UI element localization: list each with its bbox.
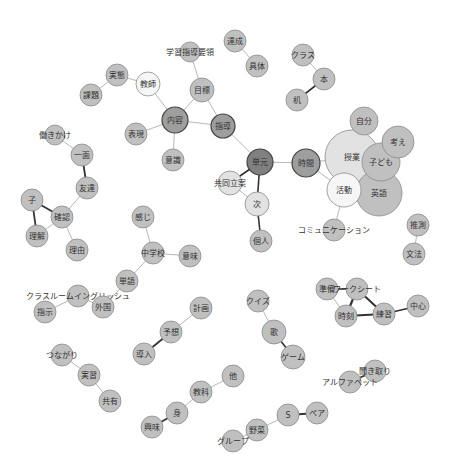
node-song[interactable]: 歌 [262,320,286,344]
node-label: 単元 [252,157,268,167]
node-label: ワークシート [333,285,381,294]
node-label: ゲーム [281,352,305,362]
node-realization[interactable]: 実習 [78,364,100,386]
node-label: アルファベット [322,378,378,387]
node-pair[interactable]: ペア [306,402,328,424]
node-class[interactable]: クラス [291,44,315,66]
node-interest[interactable]: 興味 [141,416,163,438]
node-label: 指示 [37,307,53,317]
node-guess[interactable]: 推測 [407,214,429,236]
node-foreign[interactable]: 外国 [92,296,114,318]
node-desk[interactable]: 机 [286,89,308,111]
node-label: 表現 [128,129,144,139]
node-label: 感じ [135,212,151,222]
node-aspect[interactable]: 一面 [71,144,93,166]
node-activity[interactable]: 活動 [327,173,361,207]
node-communication[interactable]: コミュニケーション [298,219,370,241]
node-expression[interactable]: 表現 [125,123,147,145]
node-vegetable[interactable]: 野菜 [246,419,268,441]
node-game[interactable]: ゲーム [281,345,305,369]
node-body[interactable]: 身 [166,402,188,424]
node-practice[interactable]: 実態 [106,64,128,86]
node-group[interactable]: グループ [217,430,249,452]
node-label: 予想 [163,327,179,337]
node-label: 時刻 [338,311,354,321]
node-s[interactable]: S [277,404,299,426]
node-label: 学習指導要領 [166,47,214,57]
node-label: 考え [390,138,406,147]
node-quiz[interactable]: クイズ [246,290,270,312]
node-other[interactable]: 他 [222,365,244,387]
node-label: 机 [293,95,301,105]
node-label: 中心 [410,301,426,311]
node-label: ペア [309,409,325,418]
node-awareness[interactable]: 意識 [162,149,184,171]
node-feeling[interactable]: 感じ [132,206,154,228]
node-next[interactable]: 次 [245,192,269,216]
node-concrete[interactable]: 具体 [246,55,268,77]
node-reason[interactable]: 理由 [66,239,88,261]
node-label: 具体 [249,61,265,71]
node-content[interactable]: 内容 [162,107,188,133]
node-goal[interactable]: 目標 [190,78,214,102]
node-child[interactable]: 子 [21,189,43,211]
node-label: コミュニケーション [298,226,370,235]
node-label: 内容 [167,115,183,125]
node-label: 理由 [69,245,85,255]
node-encourage[interactable]: 働きかけ [39,125,71,145]
node-instruction[interactable]: 指示 [34,301,56,323]
node-unit[interactable]: 単元 [247,149,273,175]
node-label: 中学校 [141,248,165,258]
node-individual[interactable]: 個人 [250,230,272,252]
node-label: 身 [173,408,181,418]
node-label: 外国 [95,302,111,312]
node-label: 単語 [119,276,135,286]
node-label: 自分 [356,116,372,126]
node-understand[interactable]: 理解 [26,225,48,247]
node-teacher[interactable]: 教師 [136,72,160,96]
node-label: 個人 [253,236,269,246]
node-label: 実態 [109,70,125,80]
node-layer: 授業英語子ども活動考え時間自分内容単元目標教師指導共同立案次歌ゲーム達成具体実態… [21,30,429,452]
node-self[interactable]: 自分 [350,107,378,135]
node-label: 意識 [165,155,181,165]
node-label: 共同立案 [214,178,246,188]
node-think[interactable]: 考え [382,126,414,158]
node-guidance[interactable]: 指導 [211,114,235,138]
node-label: 指導 [215,121,231,131]
node-label: 英語 [371,188,387,198]
node-label: 導入 [136,349,152,359]
node-label: 確認 [54,212,70,222]
node-label: 練習 [376,309,392,319]
node-confirm[interactable]: 確認 [51,206,73,228]
node-exercise[interactable]: 練習 [373,303,395,325]
node-label: 理解 [29,231,45,241]
node-meaning[interactable]: 意味 [179,245,201,267]
node-time[interactable]: 時間 [292,149,320,177]
node-curriculum[interactable]: 学習指導要領 [166,42,214,62]
node-plan[interactable]: 計画 [190,297,212,319]
node-issue[interactable]: 課題 [80,84,102,106]
node-word[interactable]: 単語 [116,270,138,292]
node-achievement[interactable]: 達成 [224,30,246,52]
co-occurrence-network: 授業英語子ども活動考え時間自分内容単元目標教師指導共同立案次歌ゲーム達成具体実態… [0,0,450,474]
node-center[interactable]: 中心 [407,295,429,317]
node-label: つながり [46,350,78,360]
node-label: 他 [229,371,237,381]
node-prediction[interactable]: 予想 [160,321,182,343]
node-introduction[interactable]: 導入 [133,343,155,365]
node-label: 働きかけ [39,130,71,140]
node-moment[interactable]: 時刻 [335,305,357,327]
node-label: 友達 [79,183,95,193]
node-book[interactable]: 本 [313,68,335,90]
node-grammar[interactable]: 文法 [403,243,425,265]
node-label: 歌 [270,327,278,337]
node-subject[interactable]: 教科 [190,381,212,403]
node-share[interactable]: 共有 [99,390,121,412]
node-worksheet[interactable]: ワークシート [333,278,381,300]
node-friend[interactable]: 友達 [76,177,98,199]
node-label: 本 [320,74,328,84]
node-label: 共有 [102,396,118,406]
node-juniorhigh[interactable]: 中学校 [141,242,165,264]
node-label: 活動 [336,185,352,195]
